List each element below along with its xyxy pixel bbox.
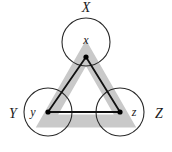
diagram-canvas: x y z X Y Z (0, 0, 172, 152)
set-label-x: X (81, 0, 91, 15)
point-z (117, 109, 122, 114)
set-label-y: Y (9, 106, 19, 121)
point-label-y: y (29, 105, 36, 119)
point-label-z: z (131, 105, 137, 119)
point-y (45, 109, 50, 114)
point-label-x: x (82, 33, 89, 47)
set-label-z: Z (155, 106, 163, 121)
point-x (83, 54, 88, 59)
set-triangle-diagram: x y z X Y Z (0, 0, 172, 152)
